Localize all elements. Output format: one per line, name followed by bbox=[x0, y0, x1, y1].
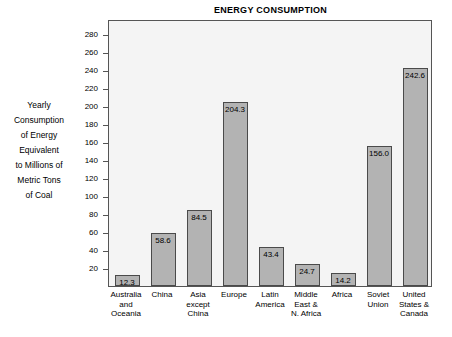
bar: 204.3 bbox=[223, 102, 248, 286]
y-axis-tick-mark bbox=[103, 233, 109, 234]
y-axis-tick-mark bbox=[103, 179, 109, 180]
y-axis-tick-label: 140 bbox=[72, 157, 98, 165]
x-axis-category-line: East & bbox=[288, 300, 324, 310]
x-axis-category-line: Latin bbox=[252, 290, 288, 300]
x-axis-category-line: Europe bbox=[216, 290, 252, 300]
x-axis-category-line: Asia bbox=[180, 290, 216, 300]
x-axis-category-line: Oceania bbox=[108, 309, 144, 319]
y-axis-tick-mark bbox=[103, 53, 109, 54]
x-axis-category-line: States & bbox=[396, 300, 432, 310]
y-axis-tick-mark bbox=[103, 89, 109, 90]
y-axis-tick-mark bbox=[103, 215, 109, 216]
y-axis-tick-mark bbox=[103, 35, 109, 36]
y-axis-tick-label: 240 bbox=[72, 67, 98, 75]
y-axis-tick-label: 100 bbox=[72, 193, 98, 201]
x-axis-category-line: Soviet bbox=[360, 290, 396, 300]
bar-value-label: 242.6 bbox=[405, 71, 425, 80]
x-axis-category-label: UnitedStates &Canada bbox=[396, 290, 432, 319]
x-axis-category-line: United bbox=[396, 290, 432, 300]
x-axis-category-line: China bbox=[144, 290, 180, 300]
x-axis-category-label: AustraliaandOceania bbox=[108, 290, 144, 319]
x-axis-category-label: MiddleEast &N. Africa bbox=[288, 290, 324, 319]
y-axis-tick-label: 160 bbox=[72, 139, 98, 147]
y-axis-title-line: to Millions of bbox=[2, 158, 76, 173]
chart-title: ENERGY CONSUMPTION bbox=[108, 5, 433, 15]
x-axis-category-label: China bbox=[144, 290, 180, 300]
y-axis-tick-label: 20 bbox=[72, 265, 98, 273]
x-axis-category-label: AsiaexceptChina bbox=[180, 290, 216, 319]
y-axis-tick-mark bbox=[103, 161, 109, 162]
bar: 58.6 bbox=[151, 233, 176, 286]
bar-value-label: 24.7 bbox=[299, 267, 315, 276]
x-axis-category-line: except bbox=[180, 300, 216, 310]
x-axis-category-label: Europe bbox=[216, 290, 252, 300]
bar-value-label: 84.5 bbox=[191, 213, 207, 222]
y-axis-tick-label: 80 bbox=[72, 211, 98, 219]
bar: 242.6 bbox=[403, 68, 428, 286]
y-axis-tick-mark bbox=[103, 143, 109, 144]
y-axis-title: YearlyConsumptionof EnergyEquivalentto M… bbox=[2, 98, 76, 203]
x-axis-category-line: Canada bbox=[396, 309, 432, 319]
bar: 24.7 bbox=[295, 264, 320, 286]
y-axis-tick-label: 40 bbox=[72, 247, 98, 255]
y-axis-tick-mark bbox=[103, 251, 109, 252]
y-axis-tick-label: 120 bbox=[72, 175, 98, 183]
y-axis-title-line: Yearly bbox=[2, 98, 76, 113]
y-axis-tick-mark bbox=[103, 197, 109, 198]
y-axis-tick-label: 180 bbox=[72, 121, 98, 129]
x-axis-category-label: Africa bbox=[324, 290, 360, 300]
bar-value-label: 12.3 bbox=[119, 278, 135, 287]
x-axis-category-line: N. Africa bbox=[288, 309, 324, 319]
bar-value-label: 14.2 bbox=[335, 276, 351, 285]
y-axis-tick-label: 60 bbox=[72, 229, 98, 237]
x-axis-category-line: Union bbox=[360, 300, 396, 310]
x-axis-category-label: SovietUnion bbox=[360, 290, 396, 309]
y-axis-tick-label: 200 bbox=[72, 103, 98, 111]
y-axis-tick-mark bbox=[103, 125, 109, 126]
x-axis-category-line: and bbox=[108, 300, 144, 310]
y-axis-tick-label: 260 bbox=[72, 49, 98, 57]
chart-figure: ENERGY CONSUMPTION YearlyConsumptionof E… bbox=[0, 0, 452, 337]
plot-area: 12.358.684.5204.343.424.714.2156.0242.6 bbox=[108, 20, 432, 287]
bar-value-label: 58.6 bbox=[155, 236, 171, 245]
x-axis-category-line: America bbox=[252, 300, 288, 310]
x-axis-category-line: Middle bbox=[288, 290, 324, 300]
y-axis-tick-label: 220 bbox=[72, 85, 98, 93]
bar: 12.3 bbox=[115, 275, 140, 286]
x-axis-category-line: Africa bbox=[324, 290, 360, 300]
y-axis-tick-mark bbox=[103, 107, 109, 108]
y-axis-tick-label: 280 bbox=[72, 31, 98, 39]
x-axis-category-line: China bbox=[180, 309, 216, 319]
bar: 84.5 bbox=[187, 210, 212, 286]
y-axis-title-line: Consumption bbox=[2, 113, 76, 128]
bar-value-label: 43.4 bbox=[263, 250, 279, 259]
x-axis-category-label: LatinAmerica bbox=[252, 290, 288, 309]
x-axis-category-line: Australia bbox=[108, 290, 144, 300]
bar-value-label: 156.0 bbox=[369, 149, 389, 158]
y-axis-tick-mark bbox=[103, 269, 109, 270]
y-axis-title-line: Metric Tons bbox=[2, 173, 76, 188]
y-axis-tick-mark bbox=[103, 71, 109, 72]
y-axis-title-line: of Energy bbox=[2, 128, 76, 143]
bar: 14.2 bbox=[331, 273, 356, 286]
bar: 43.4 bbox=[259, 247, 284, 286]
y-axis-title-line: Equivalent bbox=[2, 143, 76, 158]
y-axis-title-line: of Coal bbox=[2, 188, 76, 203]
bar-value-label: 204.3 bbox=[225, 105, 245, 114]
bar: 156.0 bbox=[367, 146, 392, 286]
